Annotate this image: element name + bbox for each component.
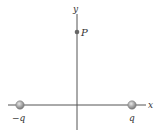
x-axis-label: x xyxy=(148,100,153,110)
y-axis-label: y xyxy=(72,4,79,14)
negative-charge xyxy=(16,101,24,109)
negative-charge-label: −q xyxy=(12,113,26,123)
positive-charge-label: q xyxy=(129,113,135,123)
charge-diagram: y x P −q q xyxy=(0,0,164,136)
positive-charge xyxy=(128,101,136,109)
point-p-marker xyxy=(75,30,80,35)
point-p-label: P xyxy=(80,27,88,38)
